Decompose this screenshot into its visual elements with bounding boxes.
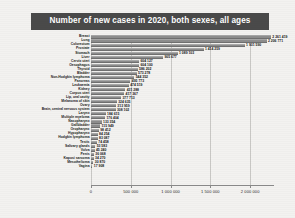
x-tick-label: 1 500 000: [201, 189, 220, 194]
bar-zone: 17 908: [91, 165, 274, 169]
x-tick-label: 2 000 000: [241, 189, 260, 194]
x-tick: [171, 185, 172, 188]
x-tick-label: 0: [90, 189, 92, 194]
bar-rows: Breast2 261 419Lung2 206 771Colorectum1 …: [22, 35, 274, 169]
bar-value-label: 17 908: [92, 164, 104, 168]
x-tick-label: 1 000 000: [161, 189, 180, 194]
x-tick: [250, 185, 251, 188]
x-tick: [91, 185, 92, 188]
chart-page: Number of new cases in 2020, both sexes,…: [0, 0, 295, 218]
category-label: Vagina: [22, 165, 91, 168]
x-axis-ticks: 0500 0001 000 0001 500 0002 000 000: [91, 185, 274, 197]
page-title: Number of new cases in 2020, both sexes,…: [49, 17, 250, 25]
plot-area: Breast2 261 419Lung2 206 771Colorectum1 …: [22, 35, 274, 187]
x-tick-label: 500 000: [123, 189, 138, 194]
bar-row: Vagina17 908: [22, 165, 274, 169]
x-tick: [131, 185, 132, 188]
x-tick: [210, 185, 211, 188]
chart-title-banner: Number of new cases in 2020, both sexes,…: [31, 13, 269, 30]
